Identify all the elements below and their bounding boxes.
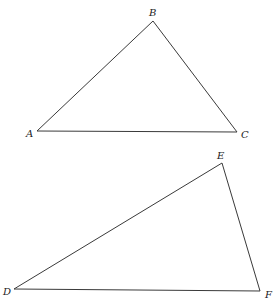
triangle-def-outline — [14, 163, 260, 291]
vertex-label-b: B — [148, 7, 156, 18]
vertex-label-a: A — [25, 128, 33, 139]
vertex-label-d: D — [2, 286, 11, 297]
vertex-label-e: E — [216, 150, 225, 161]
vertex-label-c: C — [241, 129, 249, 140]
triangles-diagram: A B C D E F — [0, 0, 275, 306]
vertex-label-f: F — [264, 289, 273, 300]
triangle-def: D E F — [2, 150, 273, 300]
triangle-abc-outline — [37, 21, 237, 132]
triangle-abc: A B C — [25, 7, 249, 140]
